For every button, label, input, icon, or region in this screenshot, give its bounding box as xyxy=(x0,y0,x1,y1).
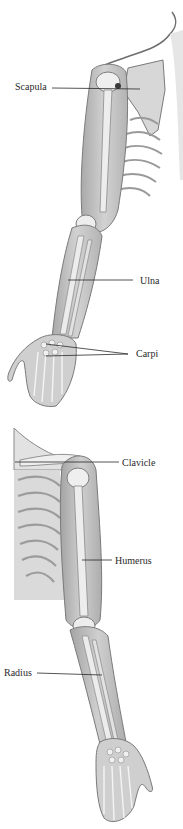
arm-illustration-top: Scapula Ulna Carpi xyxy=(0,0,183,410)
label-humerus: Humerus xyxy=(115,555,152,567)
label-scapula: Scapula xyxy=(15,81,47,93)
label-clavicle: Clavicle xyxy=(122,457,155,469)
arm-drawing-bottom xyxy=(0,410,183,829)
arm-illustration-bottom: Clavicle Humerus Radius xyxy=(0,410,183,829)
label-ulna: Ulna xyxy=(140,275,159,287)
label-carpi: Carpi xyxy=(136,348,158,360)
label-radius: Radius xyxy=(4,667,32,679)
